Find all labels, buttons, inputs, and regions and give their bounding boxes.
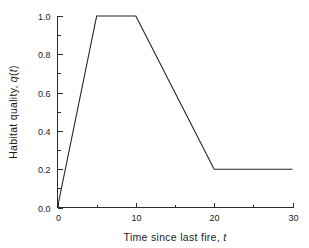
x-axis-title-text: Time since last fire, <box>124 231 224 243</box>
y-axis-title-text: Habitat quality, <box>7 82 19 159</box>
y-axis-title-paren-close: ) <box>7 65 19 69</box>
y-tick-label: 0.2 <box>38 165 51 175</box>
x-tick-label: 30 <box>288 213 298 223</box>
x-tick-label: 0 <box>56 213 61 223</box>
y-tick-label: 1.0 <box>38 12 51 22</box>
y-tick-label: 0.8 <box>38 50 51 60</box>
y-tick-label: 0.0 <box>38 204 51 214</box>
y-axis-title: Habitat quality, q(t) <box>7 65 19 159</box>
y-tick-label: 0.6 <box>38 89 51 99</box>
x-tick-label: 10 <box>131 213 141 223</box>
y-tick-label: 0.4 <box>38 127 51 137</box>
chart-figure: 0.00.20.40.60.81.0 0102030 Time since la… <box>0 0 309 248</box>
habitat-quality-line-chart: 0.00.20.40.60.81.0 0102030 Time since la… <box>0 0 309 248</box>
x-axis-title: Time since last fire, t <box>124 231 228 243</box>
x-tick-label: 20 <box>209 213 219 223</box>
